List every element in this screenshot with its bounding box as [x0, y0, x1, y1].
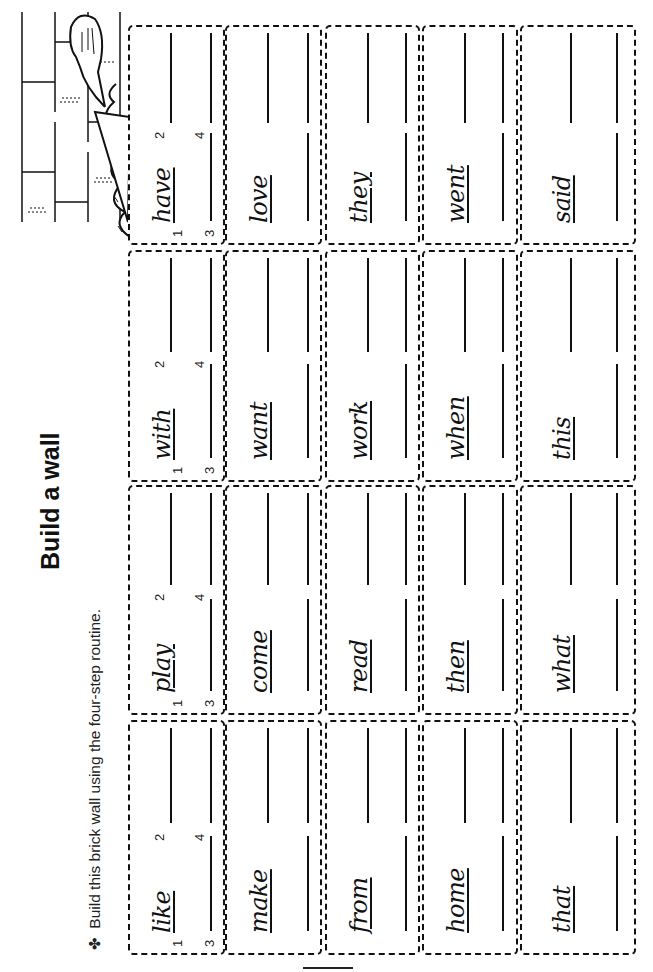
step-number-2: 2: [152, 361, 167, 368]
write-line[interactable]: [210, 599, 212, 691]
brick-that[interactable]: that: [520, 720, 636, 955]
write-line[interactable]: [307, 364, 309, 458]
write-line[interactable]: [405, 133, 407, 221]
write-line[interactable]: [267, 33, 269, 123]
write-line[interactable]: [616, 493, 618, 585]
brick-love[interactable]: love: [225, 25, 322, 245]
brick-this[interactable]: this: [520, 250, 636, 482]
brick-then[interactable]: then: [422, 485, 518, 715]
write-line[interactable]: [405, 836, 407, 931]
brick-word: play: [148, 644, 176, 693]
step-number-3: 3: [202, 700, 217, 707]
write-line[interactable]: [616, 728, 618, 823]
brick-word: make: [245, 869, 273, 933]
write-line[interactable]: [367, 258, 369, 352]
write-line[interactable]: [267, 493, 269, 585]
write-line[interactable]: [616, 599, 618, 691]
write-line[interactable]: [570, 33, 572, 123]
write-line[interactable]: [502, 258, 504, 352]
write-line[interactable]: [464, 728, 466, 823]
write-line[interactable]: [405, 728, 407, 823]
write-line[interactable]: [210, 33, 212, 123]
write-line[interactable]: [367, 493, 369, 585]
write-line[interactable]: [502, 728, 504, 823]
page-edge-mark: [303, 967, 353, 969]
step-number-2: 2: [152, 834, 167, 841]
write-line[interactable]: [616, 33, 618, 123]
brick-word: want: [245, 402, 273, 460]
step-number-4: 4: [192, 834, 207, 841]
step-number-3: 3: [202, 230, 217, 237]
write-line[interactable]: [502, 493, 504, 585]
step-number-3: 3: [202, 940, 217, 947]
write-line[interactable]: [502, 836, 504, 931]
brick-word: that: [548, 886, 576, 933]
brick-what[interactable]: what: [520, 485, 636, 715]
brick-word: went: [442, 165, 470, 223]
write-line[interactable]: [502, 599, 504, 691]
write-line[interactable]: [307, 493, 309, 585]
write-line[interactable]: [210, 836, 212, 931]
brick-they[interactable]: they: [325, 25, 420, 245]
write-line[interactable]: [405, 258, 407, 352]
brick-from[interactable]: from: [325, 720, 420, 955]
step-number-3: 3: [202, 467, 217, 474]
write-line[interactable]: [210, 258, 212, 352]
write-line[interactable]: [502, 133, 504, 221]
write-line[interactable]: [210, 728, 212, 823]
write-line[interactable]: [210, 364, 212, 458]
write-line[interactable]: [170, 493, 172, 585]
write-line[interactable]: [616, 258, 618, 352]
brick-word: they: [345, 172, 373, 223]
write-line[interactable]: [267, 728, 269, 823]
step-number-4: 4: [192, 132, 207, 139]
write-line[interactable]: [570, 493, 572, 585]
write-line[interactable]: [170, 33, 172, 123]
write-line[interactable]: [502, 33, 504, 123]
write-line[interactable]: [616, 836, 618, 931]
write-line[interactable]: [464, 258, 466, 352]
write-line[interactable]: [170, 728, 172, 823]
write-line[interactable]: [464, 33, 466, 123]
brick-went[interactable]: went: [422, 25, 518, 245]
write-line[interactable]: [307, 258, 309, 352]
brick-home[interactable]: home: [422, 720, 518, 955]
write-line[interactable]: [307, 836, 309, 931]
write-line[interactable]: [307, 728, 309, 823]
brick-want[interactable]: want: [225, 250, 322, 482]
write-line[interactable]: [405, 493, 407, 585]
brick-like[interactable]: 1 like 2 3 4: [128, 720, 225, 955]
write-line[interactable]: [170, 258, 172, 352]
write-line[interactable]: [570, 728, 572, 823]
brick-when[interactable]: when: [422, 250, 518, 482]
brick-have[interactable]: 1 have 2 3 4: [128, 25, 225, 245]
brick-work[interactable]: work: [325, 250, 420, 482]
write-line[interactable]: [210, 133, 212, 221]
write-line[interactable]: [307, 33, 309, 123]
brick-come[interactable]: come: [225, 485, 322, 715]
brick-said[interactable]: said: [520, 25, 636, 245]
brick-word: with: [148, 409, 176, 460]
brick-make[interactable]: make: [225, 720, 322, 955]
write-line[interactable]: [267, 258, 269, 352]
step-number-4: 4: [192, 594, 207, 601]
brick-word: when: [442, 396, 470, 460]
brick-wall: 1 like 2 3 4 1 play 2 3 4 1 with 2 3 4: [0, 0, 653, 972]
step-number-2: 2: [152, 132, 167, 139]
write-line[interactable]: [570, 258, 572, 352]
write-line[interactable]: [616, 364, 618, 458]
write-line[interactable]: [464, 493, 466, 585]
brick-read[interactable]: read: [325, 485, 420, 715]
write-line[interactable]: [307, 133, 309, 221]
write-line[interactable]: [405, 33, 407, 123]
write-line[interactable]: [367, 728, 369, 823]
write-line[interactable]: [502, 364, 504, 458]
brick-play[interactable]: 1 play 2 3 4: [128, 485, 225, 715]
write-line[interactable]: [307, 599, 309, 691]
write-line[interactable]: [367, 33, 369, 123]
brick-with[interactable]: 1 with 2 3 4: [128, 250, 225, 482]
write-line[interactable]: [210, 493, 212, 585]
write-line[interactable]: [405, 599, 407, 691]
write-line[interactable]: [616, 133, 618, 221]
write-line[interactable]: [405, 364, 407, 458]
